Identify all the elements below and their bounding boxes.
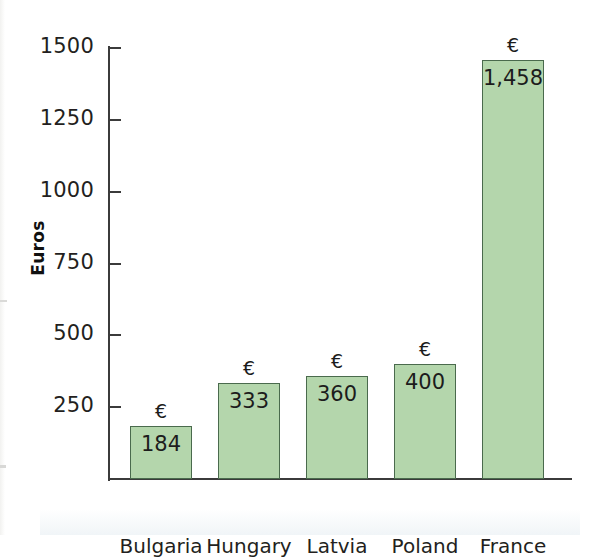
y-tick-row: 500 <box>0 335 108 336</box>
x-axis-category-label: Poland <box>380 534 470 558</box>
currency-symbol-icon: € <box>394 338 456 360</box>
currency-symbol-icon: € <box>130 400 192 422</box>
y-tick-row: 250 <box>0 407 108 408</box>
y-tick-row: 1500 <box>0 48 108 49</box>
x-axis-category-label: Hungary <box>204 534 294 558</box>
bar-value-label: 360 <box>306 382 368 406</box>
y-tick-label: 750 <box>32 250 94 274</box>
x-axis-category-label: Latvia <box>292 534 382 558</box>
y-tick-label: 1250 <box>32 106 94 130</box>
y-tick-row: 750 <box>0 264 108 265</box>
currency-symbol-icon: € <box>218 357 280 379</box>
y-tick-label: 250 <box>32 393 94 417</box>
y-tick-label: 1500 <box>32 34 94 58</box>
y-tick-label: 500 <box>32 321 94 345</box>
currency-symbol-icon: € <box>482 34 544 56</box>
bar-group[interactable]: 184€Bulgaria <box>130 48 192 479</box>
bar-group[interactable]: 333€Hungary <box>218 48 280 479</box>
y-tick-label: 1000 <box>32 178 94 202</box>
bar[interactable] <box>482 60 544 479</box>
x-axis-category-label: Bulgaria <box>116 534 206 558</box>
y-tick-row: 1000 <box>0 192 108 193</box>
bar-value-label: 400 <box>394 370 456 394</box>
y-axis-title: Euros <box>28 188 48 308</box>
currency-symbol-icon: € <box>306 350 368 372</box>
bar-group[interactable]: 400€Poland <box>394 48 456 479</box>
plot-area: 184€Bulgaria333€Hungary360€Latvia400€Pol… <box>108 48 572 479</box>
bar-value-label: 333 <box>218 389 280 413</box>
bar-value-label: 184 <box>130 432 192 456</box>
x-axis-category-label: France <box>468 534 558 558</box>
bar-group[interactable]: 1,458€France <box>482 48 544 479</box>
bar-value-label: 1,458 <box>482 66 544 90</box>
bar-group[interactable]: 360€Latvia <box>306 48 368 479</box>
y-tick-row: 1250 <box>0 120 108 121</box>
